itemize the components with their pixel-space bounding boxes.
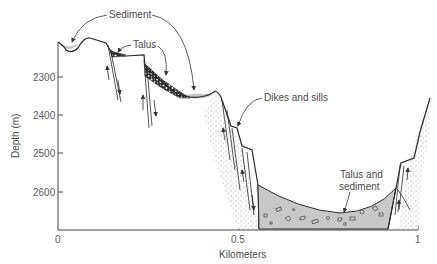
label-talus-and-sediment-2: sediment xyxy=(339,181,380,192)
arrow-talus-sediment xyxy=(344,192,350,212)
label-talus-and-sediment-1: Talus and xyxy=(340,169,383,180)
sediment-pool-left xyxy=(58,42,80,49)
y-tick-2500: 2500 xyxy=(33,148,56,159)
arrow-talus-small xyxy=(118,45,131,52)
cross-section-diagram: 2300 2400 2500 2600 Depth (m) 0 0.5 1 Ki… xyxy=(0,0,437,264)
label-sediment: Sediment xyxy=(109,9,151,20)
label-dikes-and-sills: Dikes and sills xyxy=(264,92,328,103)
arrow-dikes xyxy=(238,98,262,126)
y-tick-2300: 2300 xyxy=(33,72,56,83)
x-tick-0: 0 xyxy=(55,234,61,245)
y-axis: 2300 2400 2500 2600 Depth (m) xyxy=(10,42,63,230)
y-axis-label: Depth (m) xyxy=(10,114,21,158)
x-axis: 0 0.5 1 Kilometers xyxy=(55,225,421,260)
y-tick-2400: 2400 xyxy=(33,110,56,121)
x-axis-label: Kilometers xyxy=(219,249,266,260)
y-tick-2600: 2600 xyxy=(33,187,56,198)
x-tick-0.5: 0.5 xyxy=(231,234,245,245)
talus-large xyxy=(145,64,190,98)
x-tick-1: 1 xyxy=(415,234,421,245)
arrow-talus-large xyxy=(158,46,166,75)
label-talus: Talus xyxy=(133,39,156,50)
